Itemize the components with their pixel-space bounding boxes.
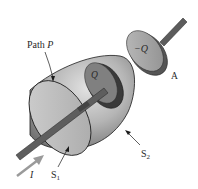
plate-a-label: A	[171, 71, 178, 81]
s2-leader	[125, 130, 140, 145]
plate-charge-label: Q	[91, 70, 98, 80]
plate-neg-charge-label: −Q	[134, 43, 149, 54]
diagram-canvas: −Q A Q I Path P S1 S2	[0, 0, 198, 189]
current-label: I	[29, 169, 34, 180]
wire-right	[160, 18, 187, 46]
path-label: Path P	[27, 39, 53, 50]
surface-s2-label: S2	[141, 148, 151, 161]
surface-s1-label: S1	[51, 169, 61, 182]
